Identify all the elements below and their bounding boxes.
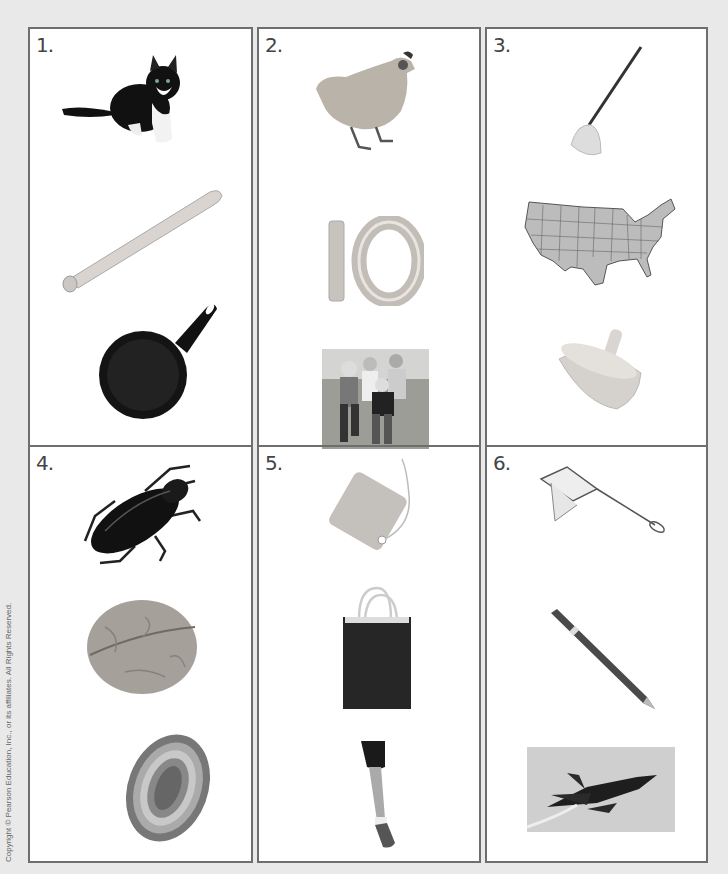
bag-picture xyxy=(341,583,413,711)
box-3: 3. xyxy=(487,29,706,445)
mop-picture xyxy=(557,45,647,160)
family-picture xyxy=(322,349,429,449)
tag-picture xyxy=(327,455,427,555)
baseball-bat-picture xyxy=(60,184,225,294)
frying-pan-picture xyxy=(95,299,220,424)
cat-picture xyxy=(60,53,190,148)
box-2: 2. xyxy=(259,29,479,445)
box-number: 4. xyxy=(36,451,53,475)
box-4: 4. xyxy=(30,445,251,861)
pen-picture xyxy=(547,607,662,712)
net-picture xyxy=(537,465,667,537)
bug-picture xyxy=(75,461,205,571)
box-number: 6. xyxy=(493,451,510,475)
rug-picture xyxy=(118,731,218,846)
jet-picture xyxy=(527,747,675,832)
box-number: 5. xyxy=(265,451,282,475)
column-1: 1. 4. xyxy=(28,27,253,863)
box-1: 1. xyxy=(30,29,251,445)
box-number: 1. xyxy=(36,33,53,57)
top-picture xyxy=(555,329,647,411)
column-2: 2. 5. xyxy=(257,27,481,863)
column-3: 3. 6. xyxy=(485,27,708,863)
copyright-notice: Copyright © Pearson Education, Inc., or … xyxy=(4,603,13,862)
box-number: 3. xyxy=(493,33,510,57)
leg-picture xyxy=(357,739,407,854)
box-5: 5. xyxy=(259,445,479,861)
hen-picture xyxy=(311,49,421,154)
nut-picture xyxy=(85,597,200,697)
box-number: 2. xyxy=(265,33,282,57)
box-6: 6. xyxy=(487,445,706,861)
ten-picture xyxy=(324,216,424,306)
map-picture xyxy=(523,197,681,289)
